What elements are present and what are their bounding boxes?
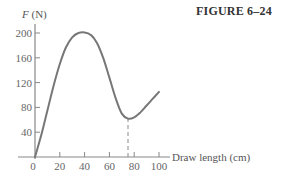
y-tick-label: 40 [21,126,33,138]
x-tick-label: 60 [104,160,116,172]
force-curve [35,32,159,157]
x-tick-label: 100 [151,160,168,172]
force-draw-length-chart: 0204060801004080120160200 [0,0,289,182]
x-tick-label: 0 [30,160,36,172]
y-tick-label: 160 [16,52,33,64]
y-tick-label: 200 [16,27,33,39]
y-tick-label: 120 [16,77,33,89]
y-tick-label: 80 [21,101,33,113]
x-tick-label: 20 [54,160,66,172]
x-tick-label: 80 [129,160,141,172]
axis-ticks: 0204060801004080120160200 [16,27,168,172]
x-tick-label: 40 [79,160,91,172]
